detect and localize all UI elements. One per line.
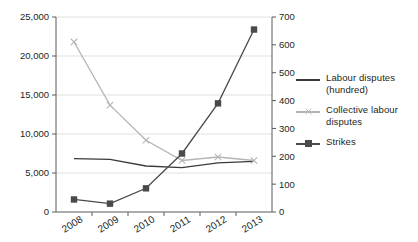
- y-tick-label-left: 10,000: [20, 128, 49, 139]
- y-tick-label-right: 400: [279, 95, 295, 106]
- legend-item-labour-disputes[interactable]: Labour disputes (hundred): [296, 72, 418, 95]
- x-tick-label: 2013: [240, 213, 265, 234]
- y-tick-label-right: 700: [279, 11, 295, 22]
- x-icon: [305, 108, 312, 115]
- y-tick-label-right: 100: [279, 179, 295, 190]
- data-point-marker: [179, 150, 185, 156]
- data-point-marker: [107, 200, 113, 206]
- chart-legend: Labour disputes (hundred) Collective lab…: [296, 72, 418, 160]
- x-tick-label: 2012: [204, 213, 229, 234]
- data-point-marker: [71, 196, 77, 202]
- y-tick-label-right: 300: [279, 123, 295, 134]
- chart-container: 05,00010,00015,00020,00025,0000100200300…: [0, 0, 418, 242]
- legend-key-line-icon: [296, 73, 320, 87]
- square-icon: [305, 140, 312, 147]
- y-tick-label-left: 25,000: [20, 11, 49, 22]
- data-point-marker: [143, 137, 149, 143]
- y-tick-label-left: 15,000: [20, 89, 49, 100]
- legend-key-x-marker-icon: [296, 105, 320, 119]
- y-tick-label-right: 500: [279, 67, 295, 78]
- x-tick-label: 2010: [132, 213, 157, 234]
- x-tick-label: 2009: [96, 213, 121, 234]
- y-tick-label-left: 0: [44, 206, 49, 217]
- legend-label: Labour disputes (hundred): [326, 72, 418, 95]
- data-point-marker: [143, 185, 149, 191]
- series-line-0: [74, 159, 254, 168]
- legend-item-collective-labour-disputes[interactable]: Collective labour disputes: [296, 104, 418, 127]
- legend-label: Strikes: [326, 136, 356, 148]
- y-tick-label-right: 0: [279, 206, 284, 217]
- data-point-marker: [71, 39, 77, 45]
- legend-label: Collective labour disputes: [326, 104, 418, 127]
- y-tick-label-left: 20,000: [20, 50, 49, 61]
- y-tick-label-left: 5,000: [25, 167, 49, 178]
- y-tick-label-right: 200: [279, 151, 295, 162]
- legend-item-strikes[interactable]: Strikes: [296, 136, 418, 151]
- data-point-marker: [215, 100, 221, 106]
- y-tick-label-right: 600: [279, 39, 295, 50]
- data-point-marker: [251, 26, 257, 32]
- x-tick-label: 2008: [60, 213, 85, 234]
- legend-key-square-marker-icon: [296, 137, 320, 151]
- series-line-1: [74, 42, 254, 161]
- data-point-marker: [107, 102, 113, 108]
- x-tick-label: 2011: [168, 213, 192, 234]
